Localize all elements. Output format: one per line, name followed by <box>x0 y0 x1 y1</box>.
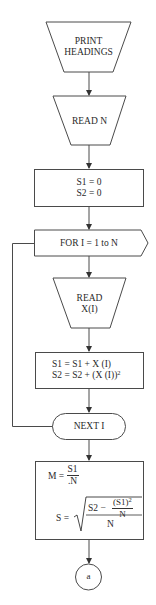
label-text: S2 = S2 + (X (I)) <box>52 370 117 380</box>
label-line: S1 = S1 + X (I) <box>52 359 121 370</box>
read-n-label: READ N <box>53 116 126 127</box>
numerator-text: (S1) <box>113 497 129 507</box>
stddev-lhs: S = <box>56 513 69 523</box>
superscript: 2 <box>129 496 132 503</box>
accumulate-label: S1 = S1 + X (I) S2 = S2 + (X (I))2 <box>52 359 121 381</box>
mean-fraction: S1 .N <box>67 464 79 487</box>
superscript: 2 <box>117 369 120 376</box>
print-headings-label: PRINT HEADINGS <box>46 36 131 58</box>
for-loop-label: FOR I = 1 to N <box>34 238 144 249</box>
mean-lhs: M = <box>48 471 64 481</box>
label-line: a <box>87 571 91 581</box>
label-line: S2 = 0 <box>34 188 144 199</box>
stddev-inner-left: S2 − <box>88 503 106 513</box>
connector-a-label: a <box>75 571 102 582</box>
label-line: S2 = S2 + (X (I))2 <box>52 370 121 381</box>
label-line: FOR I = 1 to N <box>34 238 144 249</box>
next-i-label: NEXT I <box>52 421 126 432</box>
stddev-inner-fraction: (S1)2 N <box>112 497 133 520</box>
stddev-outer-denominator: N <box>107 519 114 529</box>
denominator: N <box>112 509 133 520</box>
mean-formula: M = S1 .N <box>48 464 79 487</box>
label-line: S1 = 0 <box>34 177 144 188</box>
label-line: X(I) <box>53 304 126 315</box>
label-line: READ N <box>53 116 126 127</box>
init-label: S1 = 0 S2 = 0 <box>34 177 144 199</box>
loop-back-line <box>13 244 53 427</box>
numerator: S1 <box>67 464 79 476</box>
denominator: .N <box>67 476 79 487</box>
label-line: NEXT I <box>52 421 126 432</box>
numerator: (S1)2 <box>112 497 133 509</box>
label-line: READ <box>53 293 126 304</box>
label-line: HEADINGS <box>46 47 131 58</box>
label-line: PRINT <box>46 36 131 47</box>
read-x-label: READ X(I) <box>53 293 126 315</box>
